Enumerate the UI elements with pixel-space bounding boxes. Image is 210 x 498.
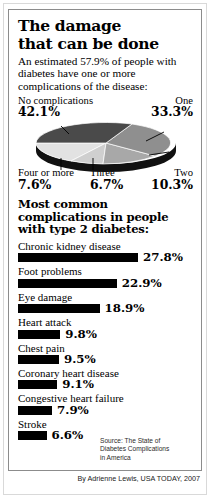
bar-row: Congestive heart failure 7.9%	[18, 392, 193, 415]
bar-fill	[18, 253, 138, 262]
subtitle: An estimated 57.9% of people with diabet…	[18, 55, 193, 92]
infographic-inner-box: The damage that can be done An estimated…	[8, 9, 202, 471]
bar-row: Foot problems 22.9%	[18, 265, 193, 288]
bar-value: 9.1%	[62, 379, 94, 390]
bar-value: 7.9%	[57, 405, 89, 416]
bar-row: Heart attack 9.8%	[18, 316, 193, 339]
bar-fill	[18, 279, 117, 288]
pie-value-four-or-more: 7.6%	[18, 178, 51, 191]
title-line-1: The damage	[18, 17, 193, 34]
bar-value: 27.8%	[143, 252, 183, 263]
bar-chart: Chronic kidney disease 27.8% Foot proble…	[18, 240, 193, 441]
title-line-2: that can be done	[18, 35, 193, 52]
bar-value: 6.6%	[52, 430, 84, 441]
bar-value: 9.5%	[64, 354, 96, 365]
byline: By Adrienne Lewis, USA TODAY, 2007	[8, 474, 202, 483]
bar-label: Stroke	[18, 418, 193, 430]
pie-value-three: 6.7%	[90, 178, 123, 191]
bar-label: Heart attack	[18, 316, 193, 328]
bar-value: 18.9%	[105, 303, 145, 314]
source-note: Source: The State of Diabetes Complicati…	[100, 437, 192, 462]
bar-fill	[18, 355, 59, 364]
bar-fill	[18, 431, 47, 440]
source-line-2: Diabetes Complications	[100, 445, 192, 453]
bar-row: Coronary heart disease 9.1%	[18, 367, 193, 390]
source-line-3: in America	[100, 454, 192, 462]
page-title: The damage that can be done	[18, 17, 193, 52]
bar-fill	[18, 304, 100, 313]
bar-label: Coronary heart disease	[18, 367, 193, 379]
bar-label: Congestive heart failure	[18, 392, 193, 404]
pie-chart: No complications 42.1% One 33.3% Four or…	[18, 93, 193, 196]
bar-label: Chest pain	[18, 342, 193, 354]
bar-row: Chronic kidney disease 27.8%	[18, 240, 193, 263]
bar-value: 22.9%	[122, 278, 162, 289]
bar-value: 9.8%	[65, 329, 97, 340]
bar-fill	[18, 406, 52, 415]
bar-row: Eye damage 18.9%	[18, 291, 193, 314]
bar-label: Foot problems	[18, 265, 193, 277]
bars-heading: Most common complications in people with…	[18, 198, 193, 236]
pie-value-two: 10.3%	[151, 178, 193, 191]
bar-fill	[18, 380, 57, 389]
bar-fill	[18, 330, 60, 339]
source-line-1: Source: The State of	[100, 437, 192, 445]
infographic-page: The damage that can be done An estimated…	[0, 0, 210, 498]
bar-row: Chest pain 9.5%	[18, 342, 193, 365]
pie-graphic	[31, 114, 181, 172]
